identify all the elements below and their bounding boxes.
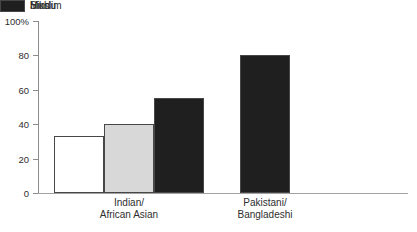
y-tick xyxy=(33,21,38,22)
legend-label: Muslim xyxy=(30,0,62,12)
y-tick xyxy=(33,90,38,91)
bar-sikh-group1 xyxy=(104,124,154,193)
category-label: Indian/ African Asian xyxy=(69,197,189,220)
bar-muslim-group1 xyxy=(154,98,204,193)
category-label: Pakistani/ Bangladeshi xyxy=(205,197,325,220)
y-axis xyxy=(38,21,39,193)
y-tick-label: 0 xyxy=(0,189,29,199)
y-tick xyxy=(33,159,38,160)
bar-muslim-group2 xyxy=(240,55,290,193)
legend-swatch-muslim xyxy=(0,0,25,12)
bar-chart: 020406080100%Indian/ African AsianPakist… xyxy=(0,0,417,232)
y-tick-label: 80 xyxy=(0,51,29,61)
y-tick-label: 40 xyxy=(0,120,29,130)
bar-hindu-group1 xyxy=(54,136,104,193)
y-tick-label: 20 xyxy=(0,155,29,165)
y-tick xyxy=(33,124,38,125)
x-axis xyxy=(38,193,408,194)
y-tick-label: 100% xyxy=(0,17,29,27)
y-tick xyxy=(33,55,38,56)
y-tick-label: 60 xyxy=(0,86,29,96)
